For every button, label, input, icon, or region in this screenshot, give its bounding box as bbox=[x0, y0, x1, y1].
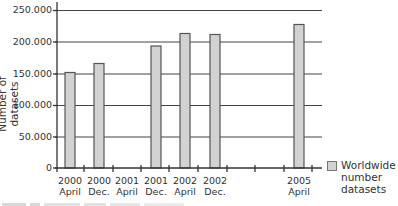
bars bbox=[65, 25, 304, 169]
figure-caption-cropped bbox=[2, 200, 202, 206]
y-tick-label: 50.000 bbox=[0, 131, 52, 142]
bar-2005-april bbox=[294, 25, 304, 169]
y-tick-label: 100.000 bbox=[0, 99, 52, 110]
y-tick-label: 0 bbox=[0, 162, 52, 173]
legend-label: Worldwide number datasets bbox=[341, 159, 396, 195]
bar-2001-dec bbox=[151, 46, 161, 168]
x-tick-label: 2000April bbox=[54, 175, 86, 197]
x-tick-label: 2001April bbox=[111, 175, 143, 197]
y-tick-label: 200.000 bbox=[0, 36, 52, 47]
cropped-text-strip bbox=[2, 202, 202, 206]
y-tick-label: 150.000 bbox=[0, 68, 52, 79]
bar-2000-april bbox=[65, 73, 75, 169]
legend-swatch bbox=[327, 161, 337, 171]
x-tick-label: 2002Dec. bbox=[199, 175, 231, 197]
x-tick-label: 2001Dec. bbox=[140, 175, 172, 197]
bar-2000-dec bbox=[94, 64, 104, 169]
x-tick-label: 2005April bbox=[283, 175, 315, 197]
bar-2002-dec bbox=[210, 35, 220, 169]
y-tick-label: 250.000 bbox=[0, 4, 52, 15]
x-tick-label: 2002April bbox=[169, 175, 201, 197]
bar-2002-april bbox=[180, 34, 190, 169]
bar-chart: Number of datasets 250.000 200.000 150.0… bbox=[0, 0, 398, 206]
